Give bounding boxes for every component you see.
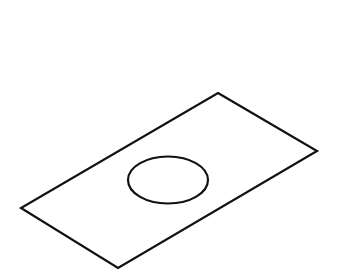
plate-drawing: [0, 0, 340, 273]
hole-outline: [128, 157, 208, 204]
plate-outline: [21, 93, 317, 268]
